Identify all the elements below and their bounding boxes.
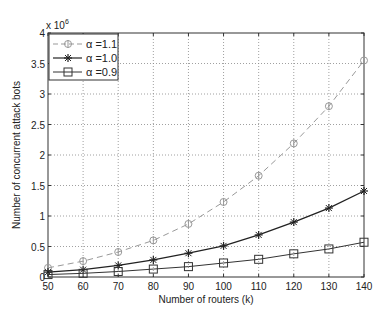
series-line bbox=[48, 242, 364, 274]
diamond-circle-marker-icon bbox=[255, 172, 262, 180]
y-multiplier-label: x 106 bbox=[46, 18, 69, 31]
y-tick-label: 0.5 bbox=[31, 242, 45, 253]
x-tick-label: 100 bbox=[215, 281, 232, 292]
x-tick-label: 60 bbox=[78, 281, 90, 292]
diamond-circle-marker-icon bbox=[185, 220, 192, 228]
star-marker-icon bbox=[220, 242, 228, 250]
star-marker-icon bbox=[360, 187, 368, 195]
star-marker-icon bbox=[114, 261, 122, 269]
diamond-circle-marker-icon bbox=[325, 102, 332, 110]
y-tick-label: 3.5 bbox=[31, 59, 45, 70]
y-tick-label: 1.5 bbox=[31, 181, 45, 192]
diamond-circle-marker-icon bbox=[290, 139, 297, 147]
y-tick-label: 0 bbox=[39, 272, 45, 283]
diamond-circle-marker-icon bbox=[361, 56, 368, 64]
series-1 bbox=[45, 56, 368, 271]
data-series bbox=[44, 56, 368, 278]
series-2 bbox=[44, 187, 368, 276]
x-tick-label: 140 bbox=[356, 281, 373, 292]
legend-label: α =1.1 bbox=[86, 38, 117, 50]
series-line bbox=[48, 60, 364, 267]
x-tick-label: 80 bbox=[148, 281, 160, 292]
y-tick-label: 1 bbox=[39, 211, 45, 222]
x-tick-label: 120 bbox=[285, 281, 302, 292]
y-tick-label: 3 bbox=[39, 89, 45, 100]
legend-label: α =0.9 bbox=[86, 66, 117, 78]
x-tick-label: 130 bbox=[321, 281, 338, 292]
x-tick-label: 90 bbox=[183, 281, 195, 292]
y-tick-label: 2 bbox=[39, 150, 45, 161]
x-tick-label: 70 bbox=[113, 281, 125, 292]
star-marker-icon bbox=[325, 204, 333, 212]
star-marker-icon bbox=[184, 249, 192, 257]
line-chart: 5060708090100110120130140 00.511.522.533… bbox=[0, 0, 380, 317]
star-marker-icon bbox=[255, 231, 263, 239]
y-axis-label: Number of concurrent attack bots bbox=[11, 81, 22, 229]
star-marker-icon bbox=[64, 54, 72, 62]
x-tick-label: 110 bbox=[251, 281, 267, 292]
y-tick-label: 4 bbox=[39, 28, 45, 39]
star-marker-icon bbox=[149, 256, 157, 264]
legend: α =1.1 α =1.0 α =0.9 bbox=[49, 34, 118, 80]
diamond-circle-marker-icon bbox=[150, 236, 157, 244]
star-marker-icon bbox=[290, 218, 298, 226]
diamond-circle-marker-icon bbox=[115, 248, 122, 256]
x-axis-label: Number of routers (k) bbox=[158, 294, 253, 305]
y-tick-label: 2.5 bbox=[31, 120, 45, 131]
legend-label: α =1.0 bbox=[86, 52, 117, 64]
diamond-circle-marker-icon bbox=[220, 198, 227, 206]
series-line bbox=[48, 191, 364, 272]
